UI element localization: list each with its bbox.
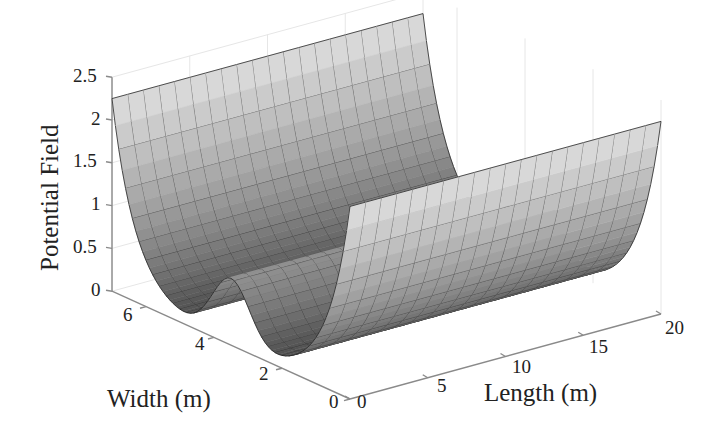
surface-plot: [0, 0, 725, 431]
z-axis-title: Potential Field: [37, 124, 62, 271]
length-tick-label: 5: [437, 376, 447, 395]
length-tick-label: 15: [589, 337, 608, 356]
z-tick-label: 0.5: [73, 237, 97, 256]
potential-surface: [112, 14, 661, 356]
z-tick-label: 1: [91, 194, 101, 213]
width-axis-title: Width (m): [107, 386, 211, 411]
width-tick-label: 6: [123, 305, 133, 324]
z-tick-label: 2.5: [73, 66, 97, 85]
width-tick-label: 0: [329, 392, 339, 411]
z-tick-label: 0: [91, 280, 101, 299]
length-axis-title: Length (m): [484, 380, 597, 405]
z-tick-label: 1.5: [73, 151, 97, 170]
z-tick-label: 2: [91, 109, 101, 128]
width-tick-label: 4: [195, 334, 205, 353]
width-tick-label: 2: [259, 364, 269, 383]
length-tick-label: 20: [665, 318, 684, 337]
length-tick-label: 10: [512, 357, 531, 376]
length-tick-label: 0: [357, 392, 367, 411]
